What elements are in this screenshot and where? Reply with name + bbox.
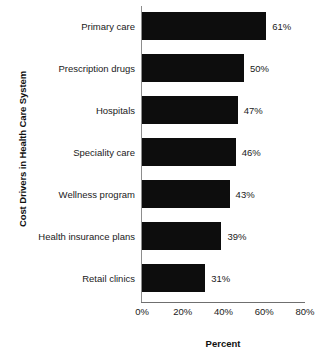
bar-row: Hospitals 47% [142, 96, 238, 124]
bar-rect [142, 180, 230, 208]
bar-category-label: Health insurance plans [38, 231, 135, 242]
plot-area: Primary care 61% Prescription drugs 50% … [142, 6, 305, 301]
bar-value-label: 43% [236, 189, 255, 200]
bar-chart: Cost Drivers in Health Care System Prima… [0, 0, 323, 361]
x-tick-label: 80% [285, 306, 323, 318]
x-axis-line [141, 302, 305, 303]
bar-rect [142, 96, 238, 124]
bar-value-label: 47% [244, 105, 263, 116]
bar-value-label: 31% [211, 273, 230, 284]
bar-category-label: Wellness program [59, 189, 135, 200]
x-tick-label: 60% [244, 306, 284, 318]
bar-rect [142, 264, 205, 292]
bar-row: Retail clinics 31% [142, 264, 205, 292]
x-axis-title: Percent [141, 338, 305, 349]
x-tick-label: 20% [163, 306, 203, 318]
x-tick-label: 40% [204, 306, 244, 318]
bar-row: Health insurance plans 39% [142, 222, 221, 250]
bar-row: Speciality care 46% [142, 138, 236, 166]
bar-category-label: Primary care [81, 21, 135, 32]
bar-value-label: 39% [227, 231, 246, 242]
bar-rect [142, 12, 266, 40]
bar-category-label: Retail clinics [82, 273, 135, 284]
bar-category-label: Speciality care [73, 147, 135, 158]
bar-category-label: Hospitals [96, 105, 135, 116]
bar-value-label: 61% [272, 21, 291, 32]
bar-row: Prescription drugs 50% [142, 54, 244, 82]
bar-rect [142, 222, 221, 250]
y-axis-title: Cost Drivers in Health Care System [16, 49, 30, 249]
bar-rect [142, 138, 236, 166]
bar-row: Primary care 61% [142, 12, 266, 40]
bar-rect [142, 54, 244, 82]
bar-category-label: Prescription drugs [58, 63, 135, 74]
bar-value-label: 50% [250, 63, 269, 74]
x-tick-label: 0% [122, 306, 162, 318]
bar-value-label: 46% [242, 147, 261, 158]
bar-row: Wellness program 43% [142, 180, 230, 208]
